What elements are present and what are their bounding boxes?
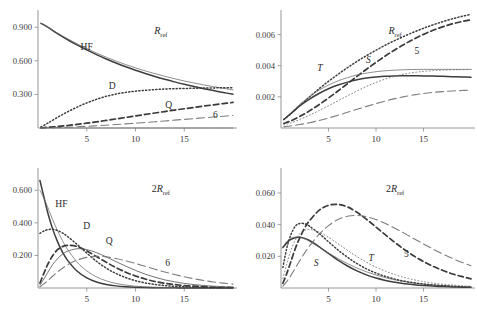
x-tick-label: 15 xyxy=(180,294,190,304)
four-panel-figure: 0.3000.6000.90051015HFDQ6Rref 0.0020.004… xyxy=(0,0,477,316)
curve-D-dotted xyxy=(40,229,233,288)
curve-label-T: T xyxy=(368,252,374,263)
x-tick-label: 10 xyxy=(131,134,141,144)
y-tick-label: 0.300 xyxy=(13,89,32,99)
panel-annotation: 2Rref xyxy=(385,183,404,196)
y-tick-label: 0.900 xyxy=(13,22,32,32)
annotation-symbol: R xyxy=(153,25,160,36)
curve-label-Q: Q xyxy=(106,235,113,246)
y-tick-label: 0.400 xyxy=(13,218,32,228)
x-tick-label: 10 xyxy=(371,294,381,304)
curve-HF-2 xyxy=(41,23,233,90)
y-tick-label: 0.060 xyxy=(255,188,274,198)
y-tick-label: 0.020 xyxy=(255,251,274,261)
annotation-subscript: ref xyxy=(163,189,171,196)
panel-top-left: 0.3000.6000.90051015HFDQ6Rref xyxy=(0,0,239,158)
x-tick-label: 15 xyxy=(418,294,428,304)
x-tick-label: 10 xyxy=(371,134,381,144)
curve-HF-solid xyxy=(40,181,233,289)
panel-top-right-plot: 0.0020.0040.00651015TS5Rref xyxy=(239,0,477,158)
annotation-subscript: ref xyxy=(394,31,402,38)
curve-label-HF: HF xyxy=(55,198,67,209)
panel-bottom-left-plot: 0.2000.4000.60051015HFDQ62Rref xyxy=(0,158,239,316)
curve-Q xyxy=(41,102,233,127)
panel-annotation: Rref xyxy=(153,25,168,38)
panel-annotation: 2Rref xyxy=(152,183,171,196)
y-tick-label: 0.200 xyxy=(13,250,32,260)
curve-label-T: T xyxy=(317,62,323,73)
x-tick-label: 5 xyxy=(84,134,89,144)
annotation-symbol: R xyxy=(389,183,396,194)
annotation-symbol: R xyxy=(156,183,163,194)
curve-label-Q: Q xyxy=(165,99,172,110)
panel-bottom-left: 0.2000.4000.60051015HFDQ62Rref xyxy=(0,158,239,316)
x-tick-label: 15 xyxy=(180,134,190,144)
curve-label-5: 5 xyxy=(414,45,419,56)
x-tick-label: 10 xyxy=(131,294,141,304)
y-tick-label: 0.040 xyxy=(255,220,274,230)
curve-D xyxy=(41,88,233,127)
y-tick-label: 0.002 xyxy=(255,92,274,102)
panel-top-right: 0.0020.0040.00651015TS5Rref xyxy=(239,0,477,158)
curve-T-dotted xyxy=(282,223,470,287)
x-tick-label: 5 xyxy=(84,294,89,304)
annotation-subscript: ref xyxy=(397,189,405,196)
y-tick-label: 0.600 xyxy=(13,56,32,66)
x-tick-label: 5 xyxy=(326,294,331,304)
curve-label-6: 6 xyxy=(213,109,218,120)
y-tick-label: 0.600 xyxy=(13,185,32,195)
panel-bottom-right-plot: 0.0200.0400.06051015ST52Rref xyxy=(239,158,477,316)
x-tick-label: 5 xyxy=(326,134,331,144)
y-tick-label: 0.006 xyxy=(255,30,275,40)
curve-label-5: 5 xyxy=(404,248,409,259)
annotation-subscript: ref xyxy=(160,31,168,38)
curve-label-D: D xyxy=(109,80,116,91)
panel-annotation: Rref xyxy=(387,25,402,38)
curve-label-S: S xyxy=(313,257,318,268)
y-tick-label: 0.004 xyxy=(255,61,275,71)
panel-bottom-right: 0.0200.0400.06051015ST52Rref xyxy=(239,158,477,316)
curve-HF xyxy=(41,23,233,94)
x-tick-label: 15 xyxy=(418,134,428,144)
curve-label-D: D xyxy=(83,220,90,231)
curve-label-HF: HF xyxy=(81,41,93,52)
curve-label-6: 6 xyxy=(165,257,170,268)
panel-top-left-plot: 0.3000.6000.90051015HFDQ6Rref xyxy=(0,0,239,158)
annotation-symbol: R xyxy=(387,25,394,36)
curve-HF-thin xyxy=(40,190,233,288)
curve-label-S: S xyxy=(366,54,371,65)
